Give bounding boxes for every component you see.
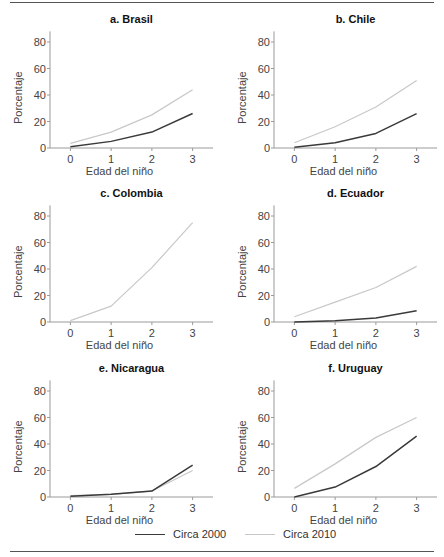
y-axis-label-ecuador: Porcentaje	[236, 245, 248, 298]
x-tick-label: 3	[414, 502, 420, 514]
x-tick-label: 1	[332, 327, 338, 339]
x-tick-label: 1	[108, 502, 114, 514]
y-tick-label: 80	[258, 210, 270, 222]
x-tick-label: 2	[149, 153, 155, 165]
series-line-2000-chile	[294, 114, 416, 148]
y-tick-label: 40	[34, 263, 46, 275]
x-tick-label: 3	[190, 502, 196, 514]
x-tick-label: 0	[291, 327, 297, 339]
x-tick-label: 0	[291, 153, 297, 165]
panel-title-nicaragua: e. Nicaragua	[99, 362, 165, 374]
x-tick-label: 2	[373, 502, 379, 514]
x-axis-label-chile: Edad del niño	[310, 165, 377, 177]
y-tick-label: 80	[258, 36, 270, 48]
y-axis-label-nicaragua: Porcentaje	[12, 420, 24, 473]
y-tick-label: 40	[258, 263, 270, 275]
y-tick-label: 20	[34, 290, 46, 302]
panel-title-ecuador: d. Ecuador	[327, 187, 385, 199]
x-axis-label-uruguay: Edad del niño	[310, 514, 377, 526]
y-tick-label: 20	[258, 116, 270, 128]
y-tick-label: 0	[40, 316, 46, 328]
x-tick-label: 2	[149, 327, 155, 339]
x-tick-label: 2	[373, 327, 379, 339]
y-tick-label: 20	[34, 116, 46, 128]
y-axis-label-chile: Porcentaje	[236, 71, 248, 124]
y-tick-label: 60	[258, 63, 270, 75]
x-tick-label: 2	[373, 153, 379, 165]
x-tick-label: 0	[67, 153, 73, 165]
x-tick-label: 1	[332, 153, 338, 165]
series-line-2010-chile	[294, 80, 416, 142]
x-tick-label: 1	[108, 327, 114, 339]
y-tick-label: 0	[40, 491, 46, 503]
y-tick-label: 60	[34, 63, 46, 75]
legend-swatch-2000	[135, 534, 165, 535]
series-line-2000-nicaragua	[70, 465, 192, 496]
x-tick-label: 0	[291, 502, 297, 514]
y-tick-label: 20	[258, 465, 270, 477]
panel-title-brasil: a. Brasil	[110, 13, 153, 25]
series-line-2010-brasil	[70, 90, 192, 144]
series-line-2000-uruguay	[294, 436, 416, 497]
series-line-2000-ecuador	[294, 311, 416, 322]
x-tick-label: 0	[67, 502, 73, 514]
y-tick-label: 20	[34, 465, 46, 477]
y-tick-label: 60	[258, 412, 270, 424]
y-tick-label: 40	[34, 89, 46, 101]
legend-swatch-2010	[245, 534, 275, 535]
series-line-2010-colombia	[70, 223, 192, 321]
x-axis-label-brasil: Edad del niño	[86, 165, 153, 177]
legend-item-2000: Circa 2000	[135, 528, 226, 540]
x-tick-label: 2	[149, 502, 155, 514]
y-axis-label-colombia: Porcentaje	[12, 245, 24, 298]
x-tick-label: 1	[108, 153, 114, 165]
y-tick-label: 80	[34, 36, 46, 48]
legend-label-2010: Circa 2010	[283, 528, 336, 540]
y-tick-label: 40	[258, 89, 270, 101]
legend: Circa 2000 Circa 2010	[0, 528, 444, 544]
x-axis-label-nicaragua: Edad del niño	[86, 514, 153, 526]
legend-label-2000: Circa 2000	[173, 528, 226, 540]
y-tick-label: 20	[258, 290, 270, 302]
x-tick-label: 1	[332, 502, 338, 514]
x-axis-label-ecuador: Edad del niño	[310, 339, 377, 351]
y-tick-label: 60	[258, 237, 270, 249]
x-tick-label: 0	[67, 327, 73, 339]
y-tick-label: 40	[258, 438, 270, 450]
y-tick-label: 40	[34, 438, 46, 450]
y-tick-label: 60	[34, 237, 46, 249]
y-tick-label: 80	[258, 385, 270, 397]
x-tick-label: 3	[414, 153, 420, 165]
y-axis-label-uruguay: Porcentaje	[236, 420, 248, 473]
y-tick-label: 80	[34, 210, 46, 222]
series-line-2010-uruguay	[294, 418, 416, 489]
x-axis-label-colombia: Edad del niño	[86, 339, 153, 351]
series-line-2000-brasil	[70, 114, 192, 147]
panel-title-chile: b. Chile	[336, 13, 376, 25]
panel-title-uruguay: f. Uruguay	[328, 362, 383, 374]
series-line-2010-nicaragua	[70, 471, 192, 496]
series-line-2010-ecuador	[294, 266, 416, 316]
legend-item-2010: Circa 2010	[245, 528, 336, 540]
y-tick-label: 60	[34, 412, 46, 424]
x-tick-label: 3	[414, 327, 420, 339]
y-tick-label: 0	[264, 491, 270, 503]
x-tick-label: 3	[190, 327, 196, 339]
x-tick-label: 3	[190, 153, 196, 165]
small-multiples-figure: a. Brasil0204060800123Edad del niñoPorce…	[0, 0, 444, 557]
y-tick-label: 0	[40, 142, 46, 154]
y-tick-label: 0	[264, 142, 270, 154]
y-tick-label: 80	[34, 385, 46, 397]
panel-title-colombia: c. Colombia	[100, 187, 163, 199]
y-axis-label-brasil: Porcentaje	[12, 71, 24, 124]
y-tick-label: 0	[264, 316, 270, 328]
